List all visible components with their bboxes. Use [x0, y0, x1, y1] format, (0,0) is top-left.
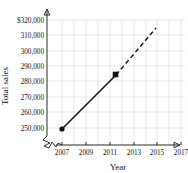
y-tick-label-310000: 310,000 [21, 32, 45, 40]
series-actual-sales-line [62, 75, 116, 129]
data-point-2012 [113, 72, 119, 78]
chart-canvas: $320,000 310,000 300,000 290,000 280,000… [0, 0, 188, 173]
x-tick-label-2015: 2015 [150, 149, 165, 157]
x-axis [56, 142, 180, 148]
y-tick-labels: $320,000 310,000 300,000 290,000 280,000… [17, 17, 44, 133]
y-tick-label-280000: 280,000 [21, 78, 45, 86]
y-tick-label-250000: 250,000 [21, 125, 45, 133]
sales-line-chart: $320,000 310,000 300,000 290,000 280,000… [0, 0, 188, 173]
axis-break-symbol [43, 136, 62, 148]
y-tick-label-290000: 290,000 [21, 63, 45, 71]
x-tick-label-2013: 2013 [127, 149, 142, 157]
y-tick-label-320000: $320,000 [17, 17, 44, 25]
y-tick-label-260000: 260,000 [21, 109, 45, 117]
y-axis-title: Total sales [0, 66, 10, 105]
y-tick-label-300000: 300,000 [21, 48, 45, 56]
y-tick-label-270000: 270,000 [21, 94, 45, 102]
y-axis [44, 9, 50, 136]
x-tick-labels: 2007 2009 2011 2013 2015 2017 [55, 149, 188, 157]
x-tick-label-2009: 2009 [79, 149, 94, 157]
x-axis-title: Year [110, 162, 127, 172]
gridlines-vertical [62, 20, 181, 145]
data-point-2007 [59, 126, 64, 131]
x-tick-label-2017: 2017 [174, 149, 188, 157]
x-tick-label-2007: 2007 [55, 149, 70, 157]
x-tick-label-2011: 2011 [103, 149, 118, 157]
